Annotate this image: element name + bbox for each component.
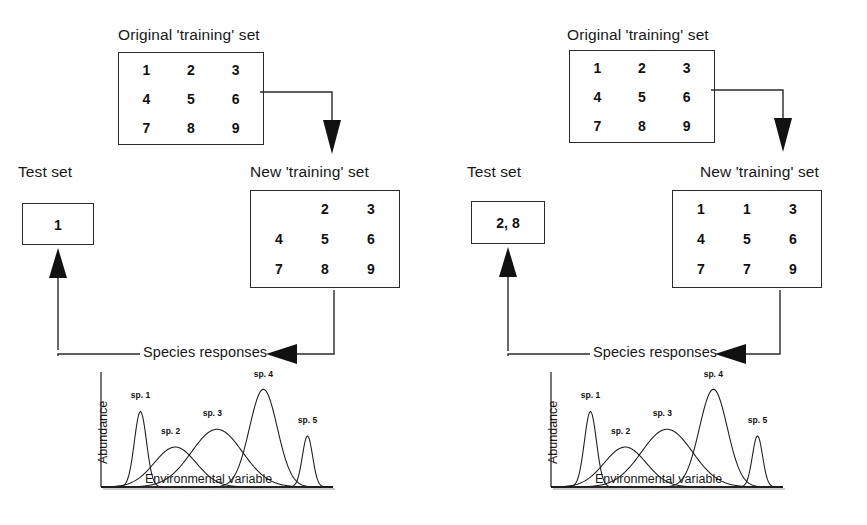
species-curve-labels: sp. 1sp. 2sp. 3sp. 4sp. 5 <box>581 369 768 436</box>
matrix-cell: 7 <box>593 119 601 133</box>
matrix-cell: 6 <box>367 232 375 246</box>
matrix-cell: 4 <box>142 92 150 106</box>
species-curve-label: sp. 1 <box>131 390 151 400</box>
arrow-original-to-new <box>709 80 829 160</box>
species-curve-label: sp. 3 <box>203 408 223 418</box>
y-axis-label: Abundance <box>546 401 560 464</box>
species-response-chart: sp. 1sp. 2sp. 3sp. 4sp. 5 Environmental … <box>538 368 798 498</box>
species-curve-label: sp. 5 <box>748 415 768 425</box>
matrix-cell: 5 <box>743 232 751 246</box>
matrix-cell: 7 <box>275 262 283 276</box>
species-curve-label: sp. 4 <box>254 369 274 379</box>
matrix-cell: 8 <box>638 119 646 133</box>
matrix-cell: 9 <box>232 121 240 135</box>
figure-canvas: Original 'training' set 1 2 3 4 5 6 7 8 … <box>0 0 867 525</box>
test-set-value: 2, 8 <box>472 215 544 231</box>
matrix-cell: 1 <box>697 202 705 216</box>
matrix-cell: 9 <box>789 262 797 276</box>
x-axis-label: Environmental variable <box>595 472 722 486</box>
test-set-caption: Test set <box>467 163 521 181</box>
matrix-cell: 2 <box>187 63 195 77</box>
matrix-cell: 3 <box>789 202 797 216</box>
matrix-cell: 6 <box>232 92 240 106</box>
matrix-cell: 8 <box>187 121 195 135</box>
species-curve-label: sp. 1 <box>581 390 601 400</box>
matrix-cell: 4 <box>275 232 283 246</box>
panel-bootstrap: Original 'training' set 1 2 3 4 5 6 7 8 … <box>434 0 867 525</box>
panel-leave-one-out: Original 'training' set 1 2 3 4 5 6 7 8 … <box>0 0 433 525</box>
matrix-cell: 9 <box>367 262 375 276</box>
matrix-cell: 7 <box>697 262 705 276</box>
matrix-cell: 5 <box>187 92 195 106</box>
matrix-cell: 8 <box>321 262 329 276</box>
matrix-cell: 4 <box>593 90 601 104</box>
species-curve-labels: sp. 1sp. 2sp. 3sp. 4sp. 5 <box>131 369 318 436</box>
test-set-caption: Test set <box>18 163 72 181</box>
matrix-cell: 5 <box>321 232 329 246</box>
original-training-set-caption: Original 'training' set <box>118 26 260 44</box>
matrix-cell: 7 <box>743 262 751 276</box>
matrix-cell: 3 <box>232 63 240 77</box>
new-training-set-matrix: 2 3 4 5 6 7 8 9 <box>256 194 394 284</box>
species-curve-label: sp. 2 <box>611 426 631 436</box>
matrix-cell: 1 <box>593 61 601 75</box>
species-curve-label: sp. 5 <box>298 415 318 425</box>
matrix-cell: 2 <box>638 61 646 75</box>
new-training-set-caption: New 'training' set <box>250 163 369 181</box>
original-training-set-caption: Original 'training' set <box>567 26 709 44</box>
species-curve-label: sp. 3 <box>653 408 673 418</box>
matrix-cell: 1 <box>142 63 150 77</box>
matrix-cell: 6 <box>683 90 691 104</box>
y-axis-label: Abundance <box>96 401 110 464</box>
matrix-cell: 9 <box>683 119 691 133</box>
species-responses-label: Species responses <box>143 344 267 360</box>
species-curve-label: sp. 4 <box>704 369 724 379</box>
matrix-cell: 6 <box>789 232 797 246</box>
species-response-chart: sp. 1sp. 2sp. 3sp. 4sp. 5 Environmental … <box>88 368 348 498</box>
original-training-set-matrix: 1 2 3 4 5 6 7 8 9 <box>575 53 709 140</box>
arrow-original-to-new <box>258 82 378 162</box>
matrix-cell: 2 <box>321 202 329 216</box>
test-set-box: 1 <box>22 203 94 245</box>
species-curve-label: sp. 2 <box>161 426 181 436</box>
matrix-cell: 3 <box>367 202 375 216</box>
original-training-set-matrix: 1 2 3 4 5 6 7 8 9 <box>124 55 258 142</box>
matrix-cell: 1 <box>743 202 751 216</box>
new-training-set-caption: New 'training' set <box>700 163 819 181</box>
test-set-value: 1 <box>23 217 93 233</box>
matrix-cell: 7 <box>142 121 150 135</box>
species-responses-label: Species responses <box>593 344 717 360</box>
new-training-set-matrix: 1 1 3 4 5 6 7 7 9 <box>678 194 816 284</box>
matrix-cell: 4 <box>697 232 705 246</box>
matrix-cell: 3 <box>683 61 691 75</box>
test-set-box: 2, 8 <box>471 201 545 244</box>
matrix-cell: 5 <box>638 90 646 104</box>
x-axis-label: Environmental variable <box>145 472 272 486</box>
